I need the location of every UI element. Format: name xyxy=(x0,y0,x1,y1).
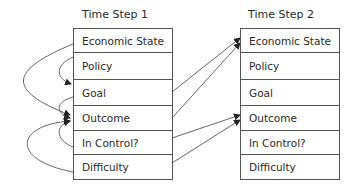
node-economic-state-t1: Economic State xyxy=(74,29,172,53)
node-policy-t2: Policy xyxy=(241,53,339,80)
node-economic-state-t2: Economic State xyxy=(241,29,339,53)
edge-outcome-to-econ2 xyxy=(172,43,240,118)
node-outcome-t1: Outcome xyxy=(74,106,172,131)
node-in-control-t2: In Control? xyxy=(241,131,339,155)
time-step-2-node-stack: Economic State Policy Goal Outcome In Co… xyxy=(240,28,340,180)
node-difficulty-t2: Difficulty xyxy=(241,155,339,179)
node-in-control-t1: In Control? xyxy=(74,131,172,155)
edge-incontrol-to-outcome xyxy=(59,121,73,147)
edge-goal-to-outcome xyxy=(59,97,73,118)
node-outcome-t2: Outcome xyxy=(241,106,339,131)
edge-goal-to-econ2 xyxy=(172,38,240,92)
edge-econ-to-outcome xyxy=(23,44,73,115)
node-goal-t1: Goal xyxy=(74,80,172,106)
edge-policy-to-goal xyxy=(59,57,73,84)
time-step-1-title: Time Step 1 xyxy=(82,8,148,21)
node-difficulty-t1: Difficulty xyxy=(74,155,172,179)
node-goal-t2: Goal xyxy=(241,80,339,106)
time-step-2-title: Time Step 2 xyxy=(248,8,314,21)
node-policy-t1: Policy xyxy=(74,53,172,80)
edge-difficulty-to-outcome xyxy=(27,121,73,172)
time-step-1-node-stack: Economic State Policy Goal Outcome In Co… xyxy=(73,28,173,180)
